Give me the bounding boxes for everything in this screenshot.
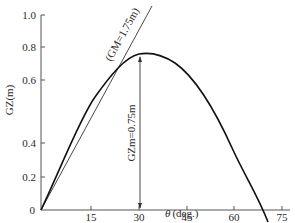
x-tick-label: 15 bbox=[86, 211, 98, 223]
x-tick-label: 60 bbox=[229, 211, 241, 223]
x-axis-label: θ(deg.) bbox=[165, 207, 199, 220]
gzm-label: GZm=0.75m bbox=[125, 104, 137, 162]
gz-curve bbox=[41, 53, 268, 222]
stability-curve-chart: 0 0.2 0.4 0.6 0.8 1.0 15 30 45 60 75 GZ(… bbox=[0, 0, 295, 223]
y-tick-label: 0.4 bbox=[22, 137, 36, 149]
x-tick-label: 30 bbox=[134, 211, 146, 223]
x-tick-label: 75 bbox=[277, 211, 289, 223]
y-tick-label: 0 bbox=[30, 204, 36, 216]
y-tick-label: 0.2 bbox=[22, 171, 36, 183]
y-ticks bbox=[41, 15, 45, 177]
y-tick-label: 1.0 bbox=[22, 9, 36, 21]
y-axis-label: GZ(m) bbox=[3, 84, 16, 115]
y-tick-label: 0.6 bbox=[22, 74, 36, 86]
y-tick-label: 0.8 bbox=[22, 41, 36, 53]
arrow-head-up-icon bbox=[138, 56, 142, 62]
